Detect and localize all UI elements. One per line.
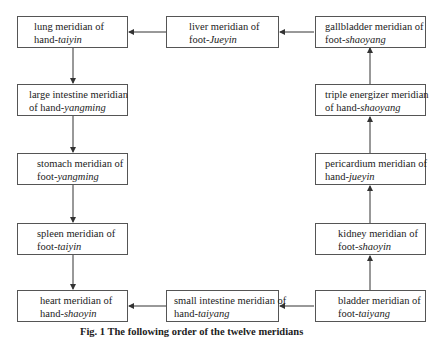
node-label-line2: foot-shaoyin: [338, 240, 425, 253]
node-label-italic: taiyang: [198, 308, 230, 319]
node-label-line2: foot-shaoyang: [325, 33, 425, 46]
node-label-italic: shaoyin: [358, 241, 391, 252]
node-label-line1: pericardium meridian of: [325, 157, 425, 170]
node-label-prefix: foot-: [338, 308, 358, 319]
node-label-prefix: hand-: [40, 308, 64, 319]
node-bladder-meridian: bladder meridian of foot-taiyang: [315, 290, 426, 322]
node-lung-meridian: lung meridian of hand-taiyin: [17, 16, 128, 48]
node-label-italic: taiyin: [58, 34, 82, 45]
node-label-line1: small intestine meridian of: [174, 294, 278, 307]
node-label-line1: heart meridian of: [40, 294, 127, 307]
node-label-line1: large intestine meridian: [29, 88, 127, 101]
node-label-line2: of hand-yangming: [29, 101, 127, 114]
node-label-line2: foot-taiyang: [338, 307, 425, 320]
node-label-line2: hand-taiyin: [34, 33, 127, 46]
node-label-italic: taiyin: [57, 241, 81, 252]
node-liver-meridian: liver meridian of foot-Jueyin: [166, 16, 279, 48]
node-label-prefix: of hand-: [29, 102, 64, 113]
node-label-line2: hand-jueyin: [325, 170, 425, 183]
node-label-line2: foot-Jueyin: [189, 33, 278, 46]
node-label-line1: stomach meridian of: [37, 157, 127, 170]
node-label-italic: shaoyin: [64, 308, 97, 319]
node-label-line2: hand-taiyang: [174, 307, 278, 320]
figure-caption: Fig. 1 The following order of the twelve…: [80, 326, 303, 337]
node-heart-meridian: heart meridian of hand-shaoyin: [17, 290, 128, 322]
node-label-prefix: hand-: [174, 308, 198, 319]
node-label-line1: bladder meridian of: [338, 294, 425, 307]
node-label-line2: hand-shaoyin: [40, 307, 127, 320]
node-label-prefix: foot-: [325, 34, 345, 45]
node-label-italic: taiyang: [358, 308, 390, 319]
node-label-italic: Jueyin: [209, 34, 236, 45]
node-label-prefix: foot-: [37, 171, 57, 182]
node-spleen-meridian: spleen meridian of foot-taiyin: [17, 223, 128, 255]
node-label-prefix: of hand-: [325, 102, 360, 113]
node-label-line2: of hand-shaoyang: [325, 101, 425, 114]
node-label-line1: lung meridian of: [34, 20, 127, 33]
node-kidney-meridian: kidney meridian of foot-shaoyin: [315, 223, 426, 255]
node-label-italic: yangming: [64, 102, 105, 113]
node-label-italic: shaoyang: [345, 34, 385, 45]
node-label-line1: triple energizer meridian: [325, 88, 425, 101]
node-label-line2: foot-yangming: [37, 170, 127, 183]
node-label-prefix: hand-: [325, 171, 349, 182]
node-stomach-meridian: stomach meridian of foot-yangming: [17, 153, 128, 185]
node-triple-energizer-meridian: triple energizer meridian of hand-shaoya…: [315, 84, 426, 116]
node-label-line1: spleen meridian of: [37, 227, 127, 240]
node-label-line1: kidney meridian of: [338, 227, 425, 240]
node-label-prefix: hand-: [34, 34, 58, 45]
node-label-italic: jueyin: [349, 171, 375, 182]
node-label-italic: shaoyang: [360, 102, 400, 113]
node-gallbladder-meridian: gallbladder meridian of foot-shaoyang: [315, 16, 426, 48]
node-large-intestine-meridian: large intestine meridian of hand-yangmin…: [17, 84, 128, 116]
node-label-line2: foot-taiyin: [37, 240, 127, 253]
node-label-line1: gallbladder meridian of: [325, 20, 425, 33]
node-pericardium-meridian: pericardium meridian of hand-jueyin: [315, 153, 426, 185]
node-label-prefix: foot-: [37, 241, 57, 252]
node-label-italic: yangming: [57, 171, 98, 182]
node-label-prefix: foot-: [338, 241, 358, 252]
node-label-prefix: foot-: [189, 34, 209, 45]
node-label-line1: liver meridian of: [189, 20, 278, 33]
node-small-intestine-meridian: small intestine meridian of hand-taiyang: [166, 290, 279, 322]
